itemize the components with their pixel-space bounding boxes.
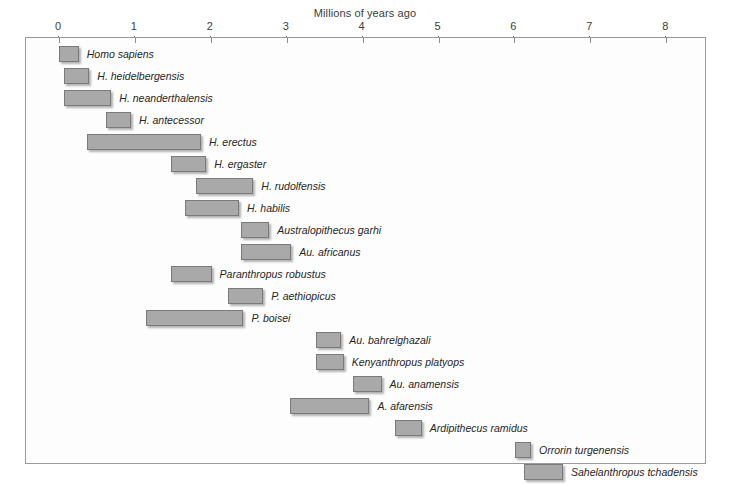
species-range-bar[interactable] — [171, 156, 206, 172]
species-range-bar[interactable] — [185, 200, 239, 216]
species-label: H. neanderthalensis — [119, 91, 212, 105]
timeline-row: H. antecessor — [26, 111, 705, 133]
species-range-bar[interactable] — [64, 68, 90, 84]
timeline-row: H. ergaster — [26, 155, 705, 177]
timeline-row: P. aethiopicus — [26, 287, 705, 309]
plot-tick-stub — [363, 38, 364, 43]
x-axis-tick-label: 8 — [662, 20, 668, 32]
species-range-bar[interactable] — [395, 420, 422, 436]
axis-title: Millions of years ago — [0, 7, 730, 19]
species-range-bar[interactable] — [228, 288, 263, 304]
x-axis-tick-label: 6 — [510, 20, 516, 32]
plot-area: Homo sapiensH. heidelbergensisH. neander… — [25, 37, 706, 464]
species-range-bar[interactable] — [353, 376, 381, 392]
species-range-bar[interactable] — [515, 442, 531, 458]
x-axis: 012345678 — [25, 22, 706, 38]
species-range-bar[interactable] — [290, 398, 369, 414]
timeline-row: Ardipithecus ramidus — [26, 419, 705, 441]
species-label: H. antecessor — [139, 113, 204, 127]
x-axis-tick-label: 0 — [55, 20, 61, 32]
plot-tick-stub — [590, 38, 591, 43]
plot-tick-stub — [666, 38, 667, 43]
plot-tick-stub — [211, 38, 212, 43]
species-range-bar[interactable] — [146, 310, 243, 326]
species-range-bar[interactable] — [316, 332, 342, 348]
timeline-row: H. neanderthalensis — [26, 89, 705, 111]
timeline-row: A. afarensis — [26, 397, 705, 419]
species-range-bar[interactable] — [59, 46, 79, 62]
x-axis-tick-label: 4 — [359, 20, 365, 32]
species-label: P. boisei — [251, 311, 290, 325]
species-range-bar[interactable] — [171, 266, 211, 282]
species-range-bar[interactable] — [524, 464, 563, 480]
species-range-bar[interactable] — [87, 134, 201, 150]
species-label: A. afarensis — [377, 399, 432, 413]
species-label: Au. bahrelghazali — [349, 333, 430, 347]
x-axis-tick-label: 5 — [434, 20, 440, 32]
species-label: H. erectus — [209, 135, 257, 149]
timeline-row: Kenyanthropus platyops — [26, 353, 705, 375]
species-label: Orrorin turgenensis — [539, 443, 629, 457]
species-range-bar[interactable] — [316, 354, 344, 370]
x-axis-tick-label: 2 — [207, 20, 213, 32]
species-label: H. habilis — [247, 201, 290, 215]
species-label: H. rudolfensis — [261, 179, 325, 193]
timeline-row: H. erectus — [26, 133, 705, 155]
x-axis-tick-label: 7 — [586, 20, 592, 32]
species-label: H. heidelbergensis — [97, 69, 184, 83]
species-range-bar[interactable] — [241, 222, 269, 238]
timeline-row: H. rudolfensis — [26, 177, 705, 199]
species-range-bar[interactable] — [241, 244, 291, 260]
species-label: Homo sapiens — [87, 47, 154, 61]
timeline-row: Au. bahrelghazali — [26, 331, 705, 353]
x-axis-tick-label: 1 — [131, 20, 137, 32]
species-label: P. aethiopicus — [271, 289, 336, 303]
species-label: Sahelanthropus tchadensis — [571, 465, 698, 479]
species-label: Kenyanthropus platyops — [352, 355, 465, 369]
timeline-row: Orrorin turgenensis — [26, 441, 705, 463]
species-label: Ardipithecus ramidus — [430, 421, 528, 435]
plot-tick-stub — [439, 38, 440, 43]
species-label: Au. africanus — [299, 245, 360, 259]
species-range-bar[interactable] — [64, 90, 112, 106]
timeline-row: P. boisei — [26, 309, 705, 331]
timeline-row: Homo sapiens — [26, 45, 705, 67]
plot-tick-stub — [135, 38, 136, 43]
timeline-row: Sahelanthropus tchadensis — [26, 463, 705, 485]
timeline-row: Au. africanus — [26, 243, 705, 265]
timeline-row: Australopithecus garhi — [26, 221, 705, 243]
x-axis-tick-label: 3 — [283, 20, 289, 32]
plot-tick-stub — [514, 38, 515, 43]
timeline-row: H. habilis — [26, 199, 705, 221]
species-range-bar[interactable] — [196, 178, 253, 194]
timeline-row: H. heidelbergensis — [26, 67, 705, 89]
species-label: Australopithecus garhi — [277, 223, 381, 237]
species-range-bar[interactable] — [106, 112, 131, 128]
timeline-row: Au. anamensis — [26, 375, 705, 397]
timeline-row: Paranthropus robustus — [26, 265, 705, 287]
plot-tick-stub — [287, 38, 288, 43]
plot-tick-stub — [59, 38, 60, 43]
species-label: Paranthropus robustus — [220, 267, 326, 281]
species-label: Au. anamensis — [390, 377, 459, 391]
species-label: H. ergaster — [214, 157, 266, 171]
